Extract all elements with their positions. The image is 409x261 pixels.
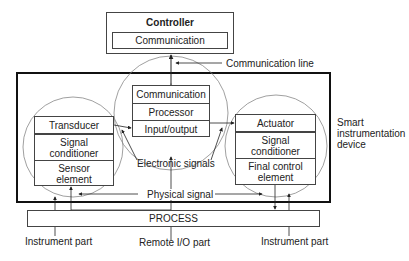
electronic-signal-pointer-right <box>211 128 222 160</box>
sensor-signal-conditioner-cell: Signal conditioner <box>35 134 113 160</box>
transducer-to-io-arrow <box>114 125 131 128</box>
electronic-signals-label: Electronic signals <box>137 158 215 169</box>
sensor-instrument-stack: Transducer Signal conditioner Sensor ele… <box>34 116 114 186</box>
transducer-cell: Transducer <box>35 117 113 134</box>
final-control-element-cell: Final control element <box>236 158 315 185</box>
controller-box: Controller Communication <box>106 12 234 54</box>
actuator-signal-conditioner-cell: Signal conditioner <box>236 132 315 158</box>
remote-io-input-output: Input/output <box>133 120 209 137</box>
remote-io-part-label: Remote I/O part <box>139 237 210 248</box>
process-box: PROCESS <box>27 210 320 227</box>
smart-device-label-line-3: device <box>337 139 405 150</box>
process-label: PROCESS <box>149 213 198 224</box>
physical-signal-label: Physical signal <box>145 189 215 200</box>
sensor-element-cell: Sensor element <box>35 160 113 186</box>
communication-line-label: Communication line <box>226 58 314 69</box>
actuator-cell: Actuator <box>236 115 315 132</box>
instrument-part-left-label: Instrument part <box>25 236 92 247</box>
controller-communication-box: Communication <box>112 32 228 49</box>
remote-io-communication: Communication <box>133 86 209 103</box>
controller-communication-label: Communication <box>135 35 204 46</box>
smart-device-label: Smart instrumentation device <box>337 117 405 150</box>
smart-device-label-line-2: instrumentation <box>337 128 405 139</box>
remote-io-processor: Processor <box>133 103 209 120</box>
actuator-instrument-stack: Actuator Signal conditioner Final contro… <box>235 114 316 185</box>
controller-title: Controller <box>107 17 233 28</box>
remote-io-stack: Communication Processor Input/output <box>132 85 210 137</box>
smart-device-label-line-1: Smart <box>337 117 405 128</box>
instrument-part-right-label: Instrument part <box>261 236 328 247</box>
